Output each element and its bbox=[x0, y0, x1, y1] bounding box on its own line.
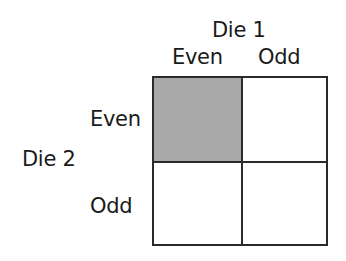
outcome-grid bbox=[152, 76, 328, 246]
cell-even-even-shaded bbox=[154, 78, 241, 161]
row-variable-label: Die 2 bbox=[22, 147, 75, 171]
row-label-even: Even bbox=[90, 107, 141, 131]
column-variable-label: Die 1 bbox=[212, 18, 265, 42]
column-label-even: Even bbox=[172, 45, 223, 69]
row-label-odd: Odd bbox=[90, 194, 132, 218]
horizontal-divider bbox=[154, 161, 326, 163]
cell-odd-even bbox=[154, 163, 241, 244]
cell-even-odd bbox=[243, 78, 328, 161]
column-label-odd: Odd bbox=[258, 45, 300, 69]
cell-odd-odd bbox=[243, 163, 328, 244]
